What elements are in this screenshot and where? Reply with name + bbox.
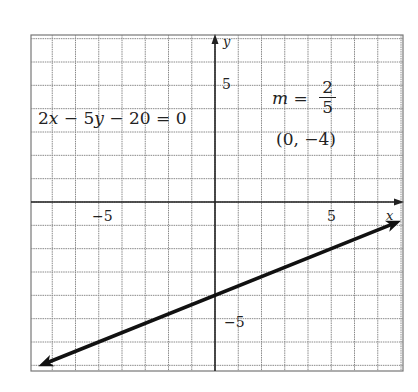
x-tick-5: 5 xyxy=(327,208,336,224)
line-series xyxy=(38,221,401,367)
eq-coef-b: 5 xyxy=(83,108,94,128)
slope-denominator: 5 xyxy=(319,98,336,117)
y-tick-5: 5 xyxy=(222,76,231,92)
slope-fraction: 25 xyxy=(319,78,336,117)
axes xyxy=(31,34,404,371)
x-axis-label: x xyxy=(386,208,393,223)
intercept-point-label: (0, −4) xyxy=(276,129,336,149)
eq-rhs: 0 xyxy=(176,108,187,128)
eq-minus-2: − xyxy=(104,108,129,128)
eq-minus-1: − xyxy=(58,108,83,128)
slope-label: m = 25 xyxy=(272,78,336,117)
grid-lines xyxy=(31,35,403,371)
eq-equals: = xyxy=(151,108,176,128)
y-axis-label: y xyxy=(223,34,230,49)
eq-const: 20 xyxy=(129,108,151,128)
slope-numerator: 2 xyxy=(319,78,336,98)
y-tick-neg5: −5 xyxy=(224,314,245,330)
x-tick-neg5: −5 xyxy=(92,208,113,224)
eq-var-x: x xyxy=(49,108,59,128)
equation-label: 2x − 5y − 20 = 0 xyxy=(38,108,187,128)
coordinate-plane xyxy=(0,0,418,392)
slope-var-m: m xyxy=(272,88,288,108)
eq-var-y: y xyxy=(94,108,104,128)
eq-coef-a: 2 xyxy=(38,108,49,128)
slope-equals: = xyxy=(288,88,313,108)
